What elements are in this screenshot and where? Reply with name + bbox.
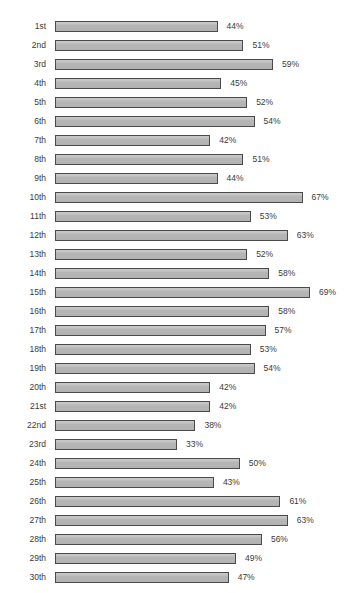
bar-track: 44% <box>55 17 361 36</box>
chart-row: 21st42% <box>0 397 361 416</box>
bar-track: 57% <box>55 321 361 340</box>
bar-track: 53% <box>55 207 361 226</box>
category-label: 27th <box>0 511 46 530</box>
bar <box>55 572 229 583</box>
chart-row: 30th47% <box>0 568 361 587</box>
bar <box>55 116 255 127</box>
bar-track: 56% <box>55 530 361 549</box>
bar-value-label: 56% <box>271 530 288 549</box>
bar <box>55 477 214 488</box>
chart-row: 10th67% <box>0 188 361 207</box>
bar <box>55 230 288 241</box>
bar-value-label: 51% <box>252 36 269 55</box>
bar-value-label: 38% <box>204 416 221 435</box>
bar-track: 58% <box>55 302 361 321</box>
bar <box>55 40 243 51</box>
bar-track: 61% <box>55 492 361 511</box>
category-label: 8th <box>0 150 46 169</box>
bar-value-label: 42% <box>219 131 236 150</box>
bar <box>55 268 269 279</box>
bar-value-label: 44% <box>227 17 244 36</box>
chart-row: 25th43% <box>0 473 361 492</box>
bar-track: 43% <box>55 473 361 492</box>
bar-track: 49% <box>55 549 361 568</box>
bar-value-label: 42% <box>219 378 236 397</box>
category-label: 24th <box>0 454 46 473</box>
bar-track: 47% <box>55 568 361 587</box>
chart-row: 26th61% <box>0 492 361 511</box>
bar-track: 54% <box>55 359 361 378</box>
bar-track: 33% <box>55 435 361 454</box>
bar-track: 52% <box>55 93 361 112</box>
bar-track: 45% <box>55 74 361 93</box>
bar-value-label: 51% <box>252 150 269 169</box>
bar <box>55 249 247 260</box>
bar-value-label: 43% <box>223 473 240 492</box>
chart-row: 27th63% <box>0 511 361 530</box>
bar-value-label: 53% <box>260 340 277 359</box>
bar-value-label: 58% <box>278 264 295 283</box>
category-label: 26th <box>0 492 46 511</box>
bar-value-label: 52% <box>256 93 273 112</box>
bar-value-label: 33% <box>186 435 203 454</box>
bar <box>55 325 266 336</box>
chart-title <box>0 0 361 4</box>
category-label: 23rd <box>0 435 46 454</box>
bar <box>55 97 247 108</box>
category-label: 30th <box>0 568 46 587</box>
chart-row: 18th53% <box>0 340 361 359</box>
bar <box>55 192 303 203</box>
bar-track: 42% <box>55 378 361 397</box>
category-label: 20th <box>0 378 46 397</box>
bar <box>55 154 243 165</box>
bar-track: 52% <box>55 245 361 264</box>
chart-row: 16th58% <box>0 302 361 321</box>
bar-value-label: 54% <box>264 359 281 378</box>
bar <box>55 21 218 32</box>
category-label: 29th <box>0 549 46 568</box>
category-label: 21st <box>0 397 46 416</box>
bar-value-label: 42% <box>219 397 236 416</box>
category-label: 9th <box>0 169 46 188</box>
chart-row: 22nd38% <box>0 416 361 435</box>
bar-value-label: 53% <box>260 207 277 226</box>
bar-value-label: 57% <box>275 321 292 340</box>
chart-row: 24th50% <box>0 454 361 473</box>
bar <box>55 173 218 184</box>
bar-track: 63% <box>55 511 361 530</box>
bar-track: 51% <box>55 36 361 55</box>
category-label: 6th <box>0 112 46 131</box>
bar-value-label: 67% <box>312 188 329 207</box>
category-label: 12th <box>0 226 46 245</box>
bar-track: 42% <box>55 131 361 150</box>
chart-row: 9th44% <box>0 169 361 188</box>
bar <box>55 496 280 507</box>
chart-rows: 1st44%2nd51%3rd59%4th45%5th52%6th54%7th4… <box>0 17 361 587</box>
bar <box>55 420 195 431</box>
chart-row: 4th45% <box>0 74 361 93</box>
chart-row: 12th63% <box>0 226 361 245</box>
category-label: 2nd <box>0 36 46 55</box>
bar-track: 54% <box>55 112 361 131</box>
bar <box>55 287 310 298</box>
bar-value-label: 52% <box>256 245 273 264</box>
bar-value-label: 58% <box>278 302 295 321</box>
bar <box>55 515 288 526</box>
category-label: 5th <box>0 93 46 112</box>
category-label: 13th <box>0 245 46 264</box>
bar-track: 42% <box>55 397 361 416</box>
chart-row: 20th42% <box>0 378 361 397</box>
category-label: 19th <box>0 359 46 378</box>
chart-row: 17th57% <box>0 321 361 340</box>
bar-value-label: 44% <box>227 169 244 188</box>
bar-track: 44% <box>55 169 361 188</box>
bar <box>55 458 240 469</box>
category-label: 3rd <box>0 55 46 74</box>
bar-track: 38% <box>55 416 361 435</box>
category-label: 14th <box>0 264 46 283</box>
bar <box>55 78 221 89</box>
category-label: 17th <box>0 321 46 340</box>
bar-value-label: 63% <box>297 511 314 530</box>
bar-value-label: 47% <box>238 568 255 587</box>
category-label: 15th <box>0 283 46 302</box>
